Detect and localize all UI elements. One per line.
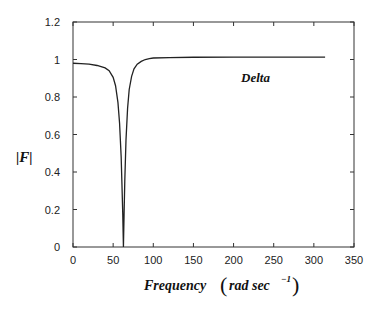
y-tick-label: 0.8: [45, 91, 60, 103]
chart: 050100150200250300350 00.20.40.60.811.2 …: [0, 0, 383, 316]
x-tick-label: 50: [107, 254, 119, 266]
x-axis-ticks: [73, 22, 354, 247]
y-tick-label: 0.6: [45, 129, 60, 141]
x-axis-tick-labels: 050100150200250300350: [70, 254, 363, 266]
x-tick-label: 200: [224, 254, 242, 266]
y-axis-tick-labels: 00.20.40.60.811.2: [45, 16, 60, 253]
x-axis-label-exponent: −1: [281, 274, 291, 284]
y-axis-ticks: [73, 22, 354, 247]
x-tick-label: 300: [305, 254, 323, 266]
x-tick-label: 0: [70, 254, 76, 266]
y-tick-label: 0: [54, 241, 60, 253]
x-axis-label: Frequency ( rad sec −1 ): [143, 272, 299, 297]
x-axis-label-unit: rad sec: [229, 278, 271, 293]
plot-frame: [73, 22, 354, 247]
x-tick-label: 250: [265, 254, 283, 266]
x-axis-label-main: Frequency: [143, 278, 207, 293]
x-tick-label: 150: [184, 254, 202, 266]
y-tick-label: 1.2: [45, 16, 60, 28]
x-tick-label: 350: [345, 254, 363, 266]
series-line-delta: [73, 57, 325, 247]
x-tick-label: 100: [144, 254, 162, 266]
y-tick-label: 0.2: [45, 204, 60, 216]
x-axis-label-paren-close: ): [292, 272, 299, 297]
x-axis-label-paren-open: (: [220, 272, 227, 297]
y-axis-label: |F|: [16, 149, 33, 165]
y-tick-label: 1: [54, 54, 60, 66]
annotation-delta: Delta: [240, 70, 270, 85]
y-tick-label: 0.4: [45, 166, 60, 178]
